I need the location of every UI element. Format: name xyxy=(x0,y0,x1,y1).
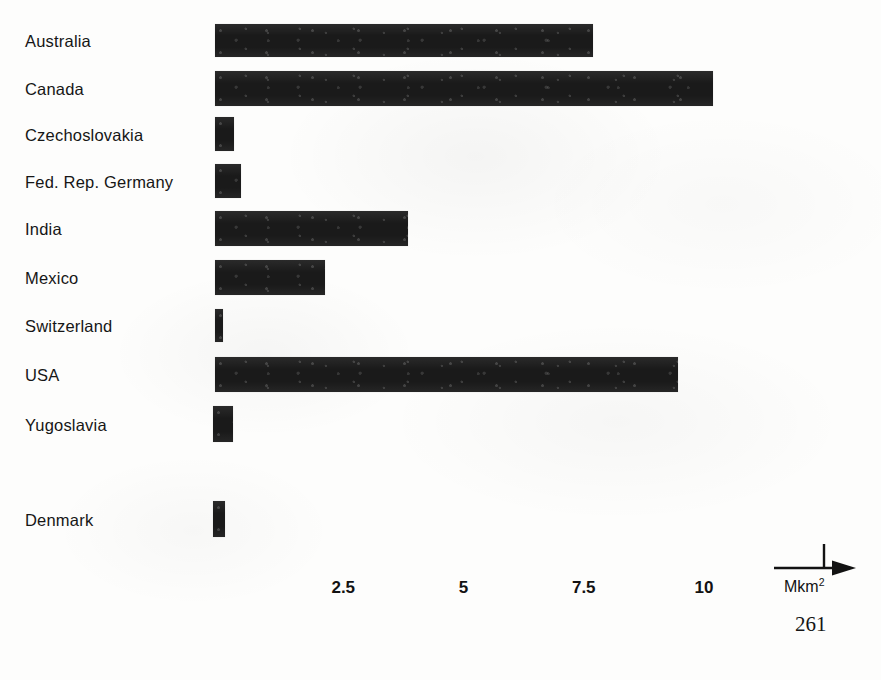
bar-yugoslavia xyxy=(213,406,233,442)
bar-australia xyxy=(215,24,593,57)
bar-denmark xyxy=(213,501,225,537)
category-label-usa: USA xyxy=(25,366,60,385)
bar-czechoslovakia xyxy=(215,117,234,151)
bar-india xyxy=(215,211,408,246)
category-label-mexico: Mexico xyxy=(25,269,78,288)
category-label-czechoslovakia: Czechoslovakia xyxy=(25,126,143,145)
category-label-fed-rep-germany: Fed. Rep. Germany xyxy=(25,173,173,192)
category-label-australia: Australia xyxy=(25,32,91,51)
bar-usa xyxy=(215,357,678,392)
category-label-denmark: Denmark xyxy=(25,511,93,530)
category-label-canada: Canada xyxy=(25,80,84,99)
axis-arrow-marker xyxy=(772,543,864,577)
category-label-yugoslavia: Yugoslavia xyxy=(25,416,107,435)
axis-unit-text: Mkm xyxy=(784,578,819,595)
category-label-switzerland: Switzerland xyxy=(25,317,113,336)
chart-page: AustraliaCanadaCzechoslovakiaFed. Rep. G… xyxy=(0,0,881,680)
axis-unit-label: Mkm2 xyxy=(784,578,825,596)
category-label-india: India xyxy=(25,220,62,239)
x-tick-7-5: 7.5 xyxy=(572,578,596,598)
x-tick-2-5: 2.5 xyxy=(331,578,355,598)
axis-unit-exponent: 2 xyxy=(819,576,825,588)
page-number: 261 xyxy=(795,612,827,637)
x-tick-5: 5 xyxy=(459,578,468,598)
bar-canada xyxy=(215,71,713,106)
x-axis-tick-labels: 2.557.510 xyxy=(0,578,881,604)
bar-switzerland xyxy=(215,309,223,342)
bar-fed-rep-germany xyxy=(215,164,241,198)
bar-mexico xyxy=(215,260,325,295)
x-tick-10: 10 xyxy=(695,578,714,598)
